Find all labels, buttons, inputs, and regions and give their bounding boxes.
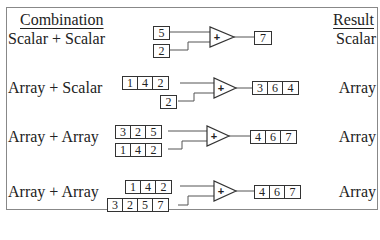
row-4-input-b: 3 2 5 7 <box>107 198 169 212</box>
row-2-input-b: 2 <box>160 95 177 109</box>
row-3-label: Array + Array <box>8 128 99 146</box>
row-2-label: Array + Scalar <box>8 79 102 97</box>
row-1-input-b: 2 <box>153 44 170 58</box>
row-3-input-b: 1 4 2 <box>115 143 162 157</box>
row-2-input-a: 1 4 2 <box>122 76 169 90</box>
row-4-result: Array <box>339 183 376 201</box>
svg-text:+: + <box>218 82 224 94</box>
row-1-label: Scalar + Scalar <box>8 30 105 48</box>
row-4-input-a: 1 4 2 <box>125 180 172 194</box>
row-2-result: Array <box>339 79 376 97</box>
row-4-output: 4 6 7 <box>254 185 301 199</box>
row-1-result: Scalar <box>336 30 376 48</box>
row-1-output: 7 <box>254 31 272 45</box>
row-4-label: Array + Array <box>8 183 99 201</box>
row-3-result: Array <box>339 128 376 146</box>
row-2-output: 3 6 4 <box>252 81 299 95</box>
svg-text:+: + <box>214 31 220 43</box>
svg-text:+: + <box>211 130 217 142</box>
row-3-input-a: 3 2 5 <box>115 125 162 139</box>
row-3-output: 4 6 7 <box>250 130 297 144</box>
row-1-input-a: 5 <box>153 26 170 40</box>
svg-text:+: + <box>218 185 224 197</box>
